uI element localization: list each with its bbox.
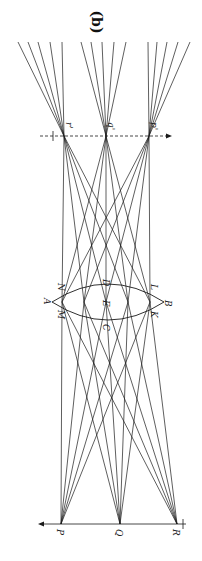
ray-image-segment bbox=[64, 136, 84, 302]
image-point-label: p' bbox=[149, 122, 159, 130]
arrow-left-icon bbox=[38, 522, 44, 527]
lens-point-label: D bbox=[101, 278, 111, 286]
ray-object-segment bbox=[120, 302, 128, 524]
ray-object-segment bbox=[61, 302, 62, 524]
panel-label: (b) bbox=[89, 10, 105, 33]
lens-point-label: N bbox=[56, 282, 66, 292]
ray-object-segment bbox=[84, 302, 120, 524]
lens-vertex-label: B bbox=[163, 299, 173, 307]
lens-vertex-label: A bbox=[42, 297, 52, 305]
ray-continuation bbox=[62, 42, 64, 136]
lens-point-label: C bbox=[101, 324, 111, 331]
ray-image-segment bbox=[149, 136, 150, 302]
ray-continuation bbox=[28, 42, 64, 136]
ray-object-segment bbox=[61, 302, 150, 524]
lens-point-label: K bbox=[149, 310, 159, 319]
image-point-label: r' bbox=[64, 122, 74, 129]
ray-image-segment bbox=[84, 136, 106, 302]
ray-image-segment bbox=[62, 136, 149, 302]
arrow-right-icon bbox=[166, 134, 172, 139]
image-point-label: q' bbox=[106, 122, 116, 130]
ray-image-segment bbox=[128, 136, 149, 302]
ray-object-segment bbox=[61, 302, 84, 524]
ray-continuation bbox=[38, 42, 64, 136]
ray-image-segment bbox=[106, 136, 128, 302]
ray-object-segment bbox=[150, 302, 177, 524]
ray-object-segment bbox=[84, 302, 177, 524]
object-point-label: Q bbox=[114, 529, 124, 537]
lens-point-label: M bbox=[56, 309, 66, 320]
ray-image-segment bbox=[62, 136, 64, 302]
ray-object-segment bbox=[106, 302, 177, 524]
point-labels: PQRr'q'p'ABNMDECLK bbox=[42, 122, 181, 537]
axes bbox=[38, 131, 186, 529]
ray-continuation bbox=[148, 42, 149, 136]
lens-ray-diagram: PQRr'q'p'ABNMDECLK (b) bbox=[0, 0, 202, 561]
lens-point-label: E bbox=[101, 299, 111, 307]
ray-image-segment bbox=[84, 136, 149, 302]
ray-object-segment bbox=[62, 302, 177, 524]
object-point-label: P bbox=[55, 528, 65, 536]
object-point-label: R bbox=[171, 528, 181, 536]
ray-object-segment bbox=[61, 302, 106, 524]
ray-image-segment bbox=[64, 136, 128, 302]
ray-image-segment bbox=[64, 136, 150, 302]
lens-point-label: L bbox=[149, 283, 159, 290]
